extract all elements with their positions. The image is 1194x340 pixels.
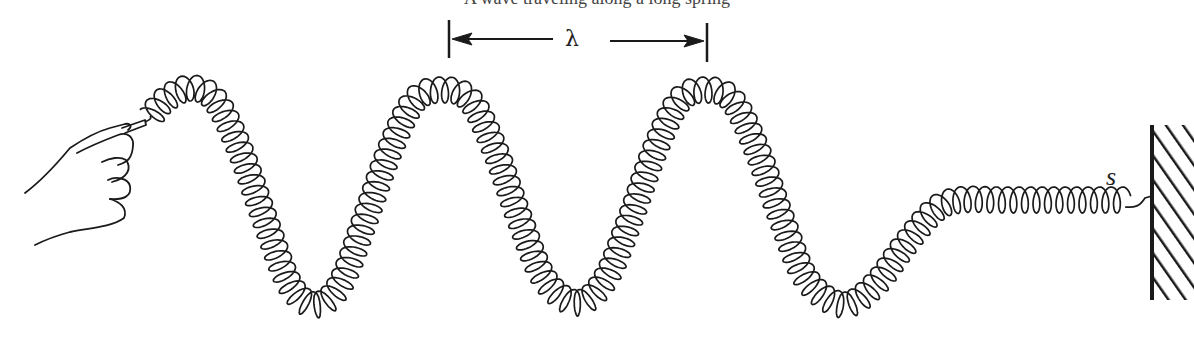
spring-end-label: s	[1106, 162, 1116, 192]
spring-lead-hand	[145, 116, 151, 122]
wall	[1152, 125, 1194, 300]
spring-lead-wall	[1125, 196, 1152, 207]
spring-coil	[140, 75, 1131, 317]
wall-hatching	[1152, 125, 1194, 300]
spring	[140, 75, 1152, 317]
hand-icon	[25, 120, 146, 245]
spring-wave-diagram	[0, 0, 1194, 340]
wavelength-label: λ	[565, 26, 579, 51]
